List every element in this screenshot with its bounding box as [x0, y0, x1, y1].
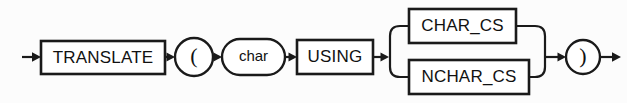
connector-using-to-branch [373, 52, 389, 61]
exit-arrow [600, 52, 621, 62]
node-translate-label: TRANSLATE [53, 48, 154, 67]
node-char: char [222, 39, 285, 75]
connector-char-to-using [285, 52, 297, 61]
railroad-diagram-canvas: TRANSLATE ( char USING [0, 0, 627, 103]
node-char-cs: CHAR_CS [409, 9, 516, 43]
connector-open-paren-to-char [213, 52, 222, 61]
node-open-paren-label: ( [190, 43, 197, 68]
node-nchar-cs-label: NCHAR_CS [421, 67, 516, 86]
node-close-paren: ) [566, 40, 600, 74]
node-char-cs-label: CHAR_CS [421, 16, 504, 35]
connector-translate-to-open-paren [165, 52, 175, 61]
node-open-paren: ( [175, 38, 213, 76]
node-close-paren-label: ) [579, 43, 586, 68]
connector-branch-to-close-paren [545, 52, 566, 61]
node-nchar-cs: NCHAR_CS [409, 60, 529, 94]
node-using: USING [297, 40, 373, 74]
node-translate: TRANSLATE [41, 41, 165, 74]
node-char-label: char [239, 47, 268, 64]
choice-group-split [390, 26, 409, 77]
node-using-label: USING [308, 47, 363, 66]
railroad-diagram-root: TRANSLATE ( char USING [0, 0, 627, 103]
entry-arrow [22, 52, 41, 62]
